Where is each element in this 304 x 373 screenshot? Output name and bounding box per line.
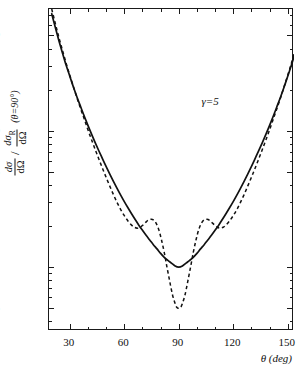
x-axis-tick-major (233, 8, 234, 14)
x-axis-tick-major (179, 8, 180, 14)
curves-svg (49, 9, 294, 331)
y-axis-tick-minor (48, 49, 52, 50)
y-axis-tick-major (287, 131, 293, 132)
y-axis-tick-minor (290, 288, 294, 289)
x-axis-tick-minor (106, 327, 107, 331)
y-axis-tick-major (287, 267, 293, 268)
y-axis-tick-minor (290, 321, 294, 322)
y-axis-tick-major (287, 308, 293, 309)
y-axis-tick-minor (48, 144, 52, 145)
y-axis-tick-minor (48, 321, 52, 322)
y-axis-tick-major (48, 131, 54, 132)
x-axis-tick-minor (270, 327, 271, 331)
x-axis-tick-major (233, 324, 234, 330)
y-axis-tick-minor (48, 152, 52, 153)
x-tick-label: 150 (278, 336, 295, 348)
y-axis-tick-major (48, 35, 54, 36)
x-axis-tick-major (179, 324, 180, 330)
x-axis-tick-major (288, 324, 289, 330)
dsigma-r-numerator: dσR (2, 128, 16, 147)
series-solid-line (52, 14, 294, 267)
y-axis-tick-minor (48, 273, 52, 274)
y-axis-label-condition: (θ=90°) (10, 91, 20, 126)
y-axis-label: dσ dΩ / dσR dΩ (θ=90°) (0, 0, 30, 330)
y-axis-tick-minor (290, 66, 294, 67)
gamma-annotation: γ=5 (201, 95, 218, 107)
y-axis-tick-minor (290, 185, 294, 186)
y-axis-tick-major (48, 308, 54, 309)
x-axis-tick-minor (197, 327, 198, 331)
x-tick-label: 90 (172, 336, 183, 348)
y-axis-tick-minor (290, 273, 294, 274)
x-axis-tick-major (124, 8, 125, 14)
x-tick-label: 60 (118, 336, 129, 348)
y-axis-tick-minor (290, 226, 294, 227)
y-axis-tick-minor (48, 226, 52, 227)
dsigma-numerator: dσ (3, 160, 14, 174)
y-axis-label-numerator-fraction: dσ dΩ (3, 158, 26, 175)
plot-area (48, 8, 293, 330)
domega-r-denominator: dΩ (16, 130, 28, 147)
x-axis-tick-minor (142, 327, 143, 331)
x-axis-tick-major (288, 8, 289, 14)
y-axis-tick-major (287, 172, 293, 173)
x-axis-tick-minor (161, 327, 162, 331)
y-axis-tick-minor (48, 90, 52, 91)
x-axis-tick-major (70, 324, 71, 330)
x-axis-tick-minor (88, 8, 89, 12)
x-axis-tick-minor (142, 8, 143, 12)
y-axis-tick-minor (290, 49, 294, 50)
x-axis-tick-minor (251, 327, 252, 331)
y-axis-tick-major (48, 172, 54, 173)
x-axis-tick-minor (215, 327, 216, 331)
y-axis-tick-minor (290, 161, 294, 162)
y-axis-tick-minor (290, 90, 294, 91)
x-axis-tick-minor (215, 8, 216, 12)
y-axis-tick-minor (48, 288, 52, 289)
domega-denominator: dΩ (14, 158, 26, 175)
y-axis-tick-minor (290, 202, 294, 203)
gamma-annotation-text: γ=5 (201, 95, 218, 107)
x-tick-label: 30 (63, 336, 74, 348)
y-axis-tick-major (48, 267, 54, 268)
y-axis-tick-minor (48, 15, 52, 16)
y-axis-tick-minor (290, 25, 294, 26)
y-axis-tick-minor (290, 152, 294, 153)
y-axis-tick-minor (290, 297, 294, 298)
x-axis-tick-major (124, 324, 125, 330)
y-axis-tick-minor (48, 280, 52, 281)
x-axis-tick-minor (106, 8, 107, 12)
y-axis-tick-minor (48, 66, 52, 67)
y-axis-tick-minor (48, 161, 52, 162)
y-axis-tick-minor (290, 280, 294, 281)
x-axis-label: θ (deg) (261, 352, 292, 364)
y-axis-tick-major (287, 35, 293, 36)
x-axis-tick-minor (88, 327, 89, 331)
x-axis-tick-minor (197, 8, 198, 12)
y-axis-label-rutherford-fraction: dσR dΩ (2, 128, 28, 147)
x-axis-tick-major (70, 8, 71, 14)
x-axis-tick-minor (161, 8, 162, 12)
y-axis-tick-minor (48, 137, 52, 138)
y-axis-tick-minor (290, 15, 294, 16)
y-axis-tick-minor (48, 202, 52, 203)
x-axis-label-text: θ (deg) (261, 352, 292, 364)
y-axis-tick-minor (290, 144, 294, 145)
y-axis-tick-minor (48, 185, 52, 186)
y-axis-tick-minor (48, 25, 52, 26)
figure-root: dσ dΩ / dσR dΩ (θ=90°) 5010510.530609012… (0, 0, 304, 373)
label-slash: / (8, 150, 21, 156)
y-axis-tick-minor (290, 137, 294, 138)
x-axis-tick-minor (251, 8, 252, 12)
x-tick-label: 120 (224, 336, 241, 348)
y-axis-tick-minor (48, 297, 52, 298)
x-axis-tick-minor (270, 8, 271, 12)
